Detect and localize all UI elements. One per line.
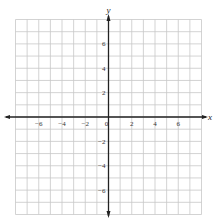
x-tick-label: 2: [130, 120, 134, 128]
x-tick-label: −2: [82, 120, 90, 128]
y-tick-label: 6: [102, 40, 106, 48]
x-axis-label: x: [207, 112, 212, 122]
x-tick-label: −6: [35, 120, 43, 128]
x-tick-label: 0: [105, 120, 109, 128]
axes: [4, 14, 208, 218]
y-tick-label: 2: [102, 89, 106, 97]
x-tick-label: −4: [58, 120, 66, 128]
y-tick-label: −6: [98, 187, 106, 195]
x-tick-label: 6: [177, 120, 181, 128]
y-axis-top-arrow-icon: [107, 14, 111, 21]
x-tick-labels: −6−4−20246: [35, 120, 180, 128]
y-tick-label: 4: [102, 65, 106, 73]
y-axis-label: y: [106, 5, 111, 15]
y-tick-label: −2: [98, 138, 106, 146]
x-axis-left-arrow-icon: [4, 115, 10, 119]
coordinate-plane: −6−4−20246 642−2−4−6 x y: [0, 0, 214, 222]
x-tick-label: 4: [153, 120, 157, 128]
y-tick-label: −4: [98, 162, 106, 170]
